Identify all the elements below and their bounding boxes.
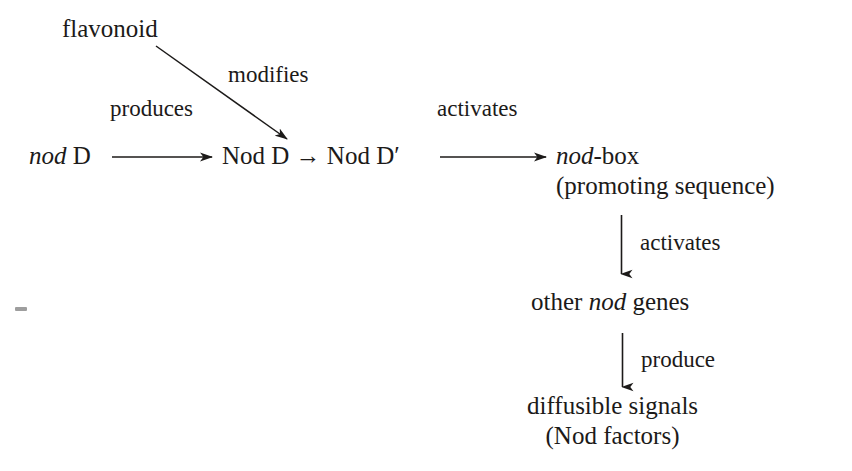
nod-d-gene-rest: D (67, 142, 91, 169)
node-nod-box: nod-box(promoting sequence) (556, 141, 775, 200)
nod-box-line2: (promoting sequence) (556, 171, 775, 201)
edge-label-activates-down: activates (640, 230, 720, 256)
node-nod-d-gene: nod D (29, 141, 91, 171)
node-nod-d-protein: Nod D → Nod D′ (222, 141, 400, 171)
edge-label-produce-down: produce (641, 347, 715, 373)
nod-d-gene-italic-part: nod (29, 142, 67, 169)
other-nod-suffix: genes (626, 288, 689, 315)
edge-label-produces: produces (110, 96, 193, 122)
other-nod-italic-part: nod (589, 288, 627, 315)
diagram-canvas: Nod D --> nod-box --> other nod genes --… (0, 0, 852, 471)
nod-box-rest: -box (594, 142, 640, 169)
other-nod-prefix: other (531, 288, 589, 315)
edge-label-activates-top: activates (437, 96, 517, 122)
diffusible-line1: diffusible signals (527, 391, 698, 421)
scan-artifact-speck (15, 307, 27, 311)
node-flavonoid: flavonoid (62, 14, 158, 44)
node-other-nod-genes: other nod genes (531, 287, 689, 317)
nod-box-line1: nod-box (556, 141, 775, 171)
edge-label-modifies: modifies (228, 62, 309, 88)
nod-box-italic-part: nod (556, 142, 594, 169)
diffusible-line2: (Nod factors) (527, 421, 698, 451)
arrow-layer: Nod D --> nod-box --> other nod genes --… (0, 0, 852, 471)
arrow-modifies-diagonal (156, 46, 287, 139)
node-diffusible-signals: diffusible signals(Nod factors) (527, 391, 698, 450)
